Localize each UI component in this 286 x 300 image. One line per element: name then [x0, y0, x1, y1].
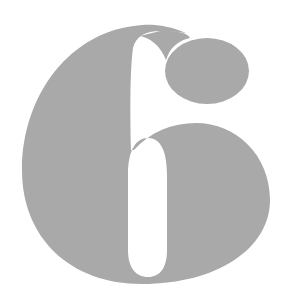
- numeral-six-figure: 6: [0, 0, 286, 300]
- numeral-six-ball-terminal: [165, 38, 249, 104]
- numeral-six-icon: [0, 0, 286, 300]
